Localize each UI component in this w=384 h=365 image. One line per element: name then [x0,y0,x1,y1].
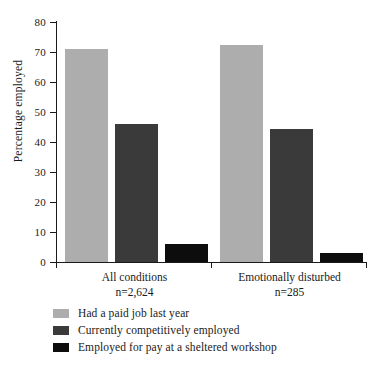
bar [320,253,363,262]
bar [220,45,263,263]
legend-label: Had a paid job last year [78,307,189,320]
y-axis-tick-label: 0 [16,257,46,268]
legend-label: Currently competitively employed [78,324,240,337]
y-axis-tick [50,82,57,83]
y-axis-tick [50,52,57,53]
y-axis-tick [50,232,57,233]
y-axis-tick-label: 10 [16,227,46,238]
legend-item: Had a paid job last year [53,305,383,322]
legend-swatch-icon [53,343,69,352]
bar [270,129,313,263]
y-axis-tick [50,22,57,23]
y-axis-tick-label: 70 [16,47,46,58]
category-name: Emotionally disturbed [238,271,341,283]
legend-swatch-icon [53,309,69,318]
plot-area [57,22,367,262]
y-axis-tick-label: 50 [16,107,46,118]
category-name: All conditions [102,271,168,283]
bar [165,244,208,262]
bar [65,49,108,262]
y-axis-tick [50,172,57,173]
bar-chart-figure: Percentage employed 80706050403020100 Al… [0,0,384,365]
x-axis-tick-middle [211,262,212,268]
legend-item: Employed for pay at a sheltered workshop [53,339,383,356]
category-label-group-1: All conditions n=2,624 [57,270,212,300]
chart-legend: Had a paid job last yearCurrently compet… [53,305,383,356]
legend-label: Employed for pay at a sheltered workshop [78,341,277,354]
legend-item: Currently competitively employed [53,322,383,339]
category-sample-size: n=2,624 [57,285,212,300]
y-axis-tick-label: 40 [16,137,46,148]
x-axis-tick-end [366,262,367,268]
y-axis-tick [50,112,57,113]
y-axis-tick-label: 30 [16,167,46,178]
x-axis-tick-start [56,262,57,268]
bar [115,124,158,262]
y-axis-tick [50,202,57,203]
category-sample-size: n=285 [212,285,367,300]
category-label-group-2: Emotionally disturbed n=285 [212,270,367,300]
y-axis-tick-label: 80 [16,17,46,28]
legend-swatch-icon [53,326,69,335]
y-axis-tick-label: 60 [16,77,46,88]
y-axis-tick [50,142,57,143]
y-axis-tick-label: 20 [16,197,46,208]
